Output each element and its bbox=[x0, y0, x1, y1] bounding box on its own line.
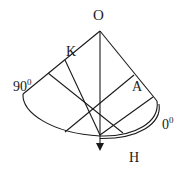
line-left-2 bbox=[48, 73, 123, 133]
left-radius bbox=[23, 31, 100, 94]
label-a: A bbox=[132, 79, 143, 94]
label-o: O bbox=[93, 7, 104, 23]
sector-diagram: O K A H 900 00 bbox=[0, 0, 185, 171]
line-k-h bbox=[65, 60, 100, 135]
label-90-degree: 900 bbox=[13, 77, 32, 94]
label-k: K bbox=[66, 44, 76, 59]
label-h: H bbox=[129, 150, 139, 165]
right-radius bbox=[100, 31, 157, 101]
label-0-degree: 00 bbox=[162, 115, 174, 132]
arrow-down-icon bbox=[96, 143, 104, 151]
